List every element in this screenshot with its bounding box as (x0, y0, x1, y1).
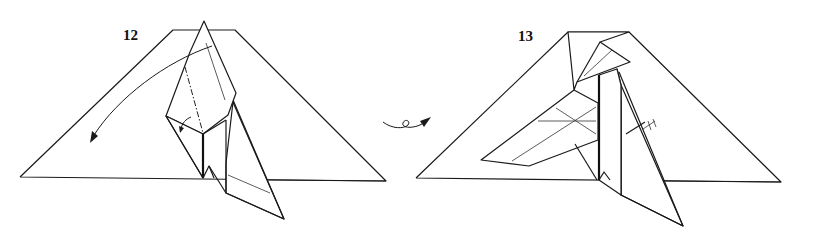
center-strip-13 (599, 69, 621, 195)
origami-diagram: 12 13 (0, 0, 820, 239)
step-13: 13 (416, 28, 781, 226)
wing-13 (481, 90, 598, 166)
step-12: 12 (20, 21, 386, 219)
base-right-segment-13 (665, 181, 781, 182)
turn-over-icon (383, 117, 431, 128)
wing-lower-edge-13 (575, 144, 597, 180)
base-right-segment-12 (268, 180, 386, 181)
step-number-13: 13 (518, 28, 533, 44)
center-body-12 (166, 21, 236, 134)
equal-distance-marks (643, 119, 656, 130)
step-number-12: 12 (123, 27, 138, 43)
arrowhead-12 (90, 131, 98, 143)
